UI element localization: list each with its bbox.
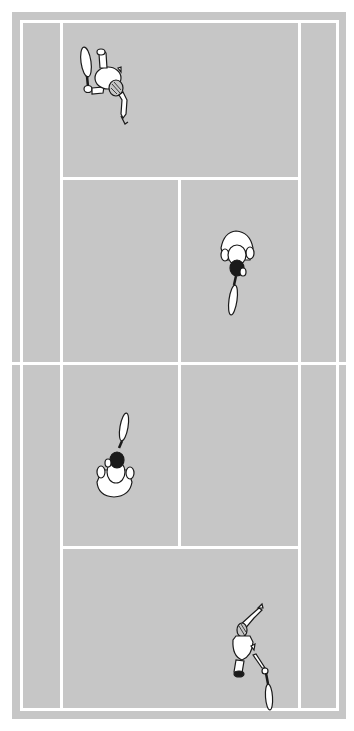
racket-icon [79, 46, 93, 77]
racket-icon [227, 285, 239, 316]
player-top-baseline [79, 46, 128, 124]
player-bottom-baseline [233, 604, 273, 710]
player-top-net [221, 231, 254, 315]
player-bottom-net [97, 413, 134, 497]
racket-icon [265, 684, 274, 710]
racket-icon [118, 413, 131, 442]
hair [110, 452, 124, 468]
